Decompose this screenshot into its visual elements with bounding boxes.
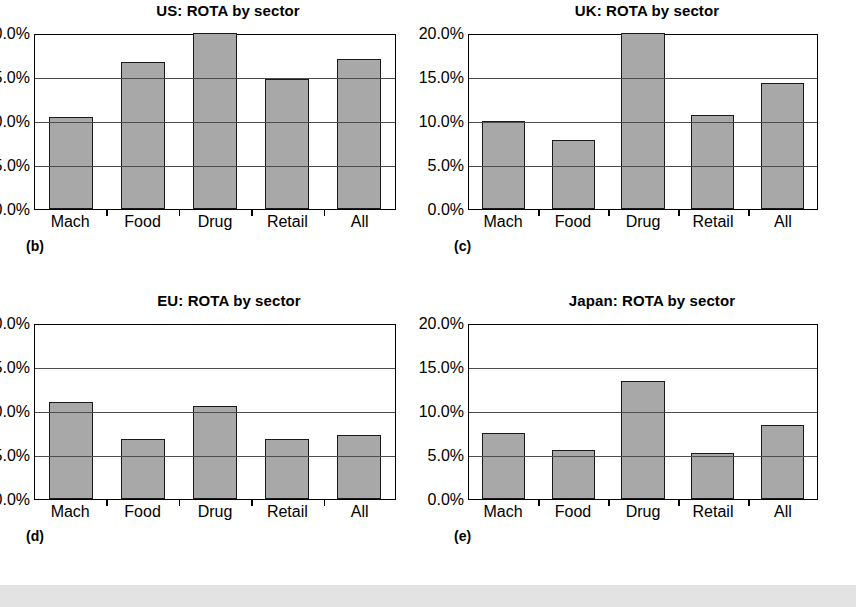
x-axis-label: All [748,212,818,232]
x-axis-label: Retail [678,502,748,522]
bar[interactable] [265,439,310,499]
x-axis-label: Food [106,502,178,522]
x-axis-label: Retail [251,502,323,522]
y-tick-label: 5.0% [0,448,30,464]
figure-panel-group: US: ROTA by sector 0.0%5.0%10.0%15.0%20.… [0,0,856,585]
panel-label: (e) [454,528,471,544]
x-axis-label: All [748,502,818,522]
gridline [35,368,395,369]
plot-area [34,34,396,210]
y-tick-label: 10.0% [419,404,464,420]
bar[interactable] [121,62,166,209]
bar[interactable] [691,115,734,209]
x-axis-labels: MachFoodDrugRetailAll [34,212,396,232]
gridline [469,78,817,79]
x-axis-label: Retail [678,212,748,232]
chart-title: US: ROTA by sector [0,2,428,19]
bar[interactable] [193,406,238,499]
x-axis-label: All [324,212,396,232]
y-tick-label: 0.0% [0,202,30,218]
gridline [469,122,817,123]
bar[interactable] [691,453,734,499]
panel-label: (d) [26,528,44,544]
x-axis-label: Mach [468,502,538,522]
x-axis-label: Mach [468,212,538,232]
y-tick-label: 20.0% [0,316,30,332]
gridline [35,412,395,413]
chart-panel-d: EU: ROTA by sector 0.0%5.0%10.0%15.0%20.… [0,290,428,580]
chart-panel-c: UK: ROTA by sector 0.0%5.0%10.0%15.0%20.… [428,0,856,290]
y-tick-label: 10.0% [0,114,30,130]
y-axis: 0.0%5.0%10.0%15.0%20.0% [0,34,30,210]
x-axis-label: Food [538,212,608,232]
bar[interactable] [49,402,94,499]
plot-wrapper: 0.0%5.0%10.0%15.0%20.0% MachFoodDrugReta… [34,34,396,210]
y-tick-label: 20.0% [419,316,464,332]
panel-label: (b) [26,238,44,254]
bar[interactable] [265,79,310,209]
y-tick-label: 15.0% [0,70,30,86]
x-axis-label: Drug [179,502,251,522]
x-axis-labels: MachFoodDrugRetailAll [34,502,396,522]
bar[interactable] [761,425,804,499]
bar[interactable] [621,381,664,499]
x-axis-label: Drug [179,212,251,232]
panel-label: (c) [454,238,471,254]
y-tick-label: 0.0% [0,492,30,508]
bar[interactable] [552,140,595,209]
gridline [469,368,817,369]
y-tick-label: 15.0% [419,70,464,86]
gridline [469,456,817,457]
y-tick-label: 20.0% [0,26,30,42]
bar[interactable] [482,433,525,499]
x-axis-labels: MachFoodDrugRetailAll [468,212,818,232]
y-tick-label: 5.0% [428,158,464,174]
y-tick-label: 5.0% [0,158,30,174]
bar[interactable] [761,83,804,209]
x-axis-label: Food [106,212,178,232]
y-axis: 0.0%5.0%10.0%15.0%20.0% [428,324,464,500]
gridline [469,166,817,167]
gridline [35,456,395,457]
y-tick-label: 20.0% [419,26,464,42]
y-axis: 0.0%5.0%10.0%15.0%20.0% [428,34,464,210]
y-tick-label: 15.0% [0,360,30,376]
bar[interactable] [337,59,382,209]
bar[interactable] [49,117,94,209]
chart-panel-b: US: ROTA by sector 0.0%5.0%10.0%15.0%20.… [0,0,428,290]
gridline [35,166,395,167]
x-axis-label: Food [538,502,608,522]
x-axis-label: Drug [608,502,678,522]
bar[interactable] [121,439,166,499]
plot-wrapper: 0.0%5.0%10.0%15.0%20.0% MachFoodDrugReta… [468,34,818,210]
y-tick-label: 5.0% [428,448,464,464]
y-axis: 0.0%5.0%10.0%15.0%20.0% [0,324,30,500]
footer-strip [0,585,856,607]
y-tick-label: 10.0% [0,404,30,420]
y-tick-label: 10.0% [419,114,464,130]
x-axis-label: Mach [34,212,106,232]
y-tick-label: 0.0% [428,202,464,218]
x-axis-label: Retail [251,212,323,232]
x-axis-label: All [324,502,396,522]
plot-area [468,324,818,500]
y-tick-label: 0.0% [428,492,464,508]
plot-wrapper: 0.0%5.0%10.0%15.0%20.0% MachFoodDrugReta… [468,324,818,500]
bar[interactable] [552,450,595,499]
chart-title: EU: ROTA by sector [0,292,428,309]
gridline [469,412,817,413]
chart-title: Japan: ROTA by sector [428,292,856,309]
bar[interactable] [337,435,382,499]
x-axis-label: Mach [34,502,106,522]
plot-area [468,34,818,210]
plot-area [34,324,396,500]
x-axis-labels: MachFoodDrugRetailAll [468,502,818,522]
gridline [35,122,395,123]
x-axis-label: Drug [608,212,678,232]
chart-title: UK: ROTA by sector [428,2,856,19]
gridline [35,78,395,79]
plot-wrapper: 0.0%5.0%10.0%15.0%20.0% MachFoodDrugReta… [34,324,396,500]
y-tick-label: 15.0% [419,360,464,376]
chart-panel-e: Japan: ROTA by sector 0.0%5.0%10.0%15.0%… [428,290,856,580]
